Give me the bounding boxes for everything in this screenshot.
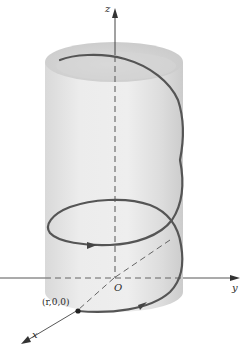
- helix-cylinder-diagram: [0, 0, 245, 353]
- origin-label: O: [114, 283, 122, 293]
- x-axis-label: x: [32, 330, 38, 340]
- cylinder: [45, 42, 183, 312]
- z-axis-label: z: [105, 4, 110, 14]
- point-r00-label: (r,0,0): [42, 298, 70, 307]
- y-axis-label: y: [232, 283, 238, 293]
- point-r00: [75, 308, 80, 313]
